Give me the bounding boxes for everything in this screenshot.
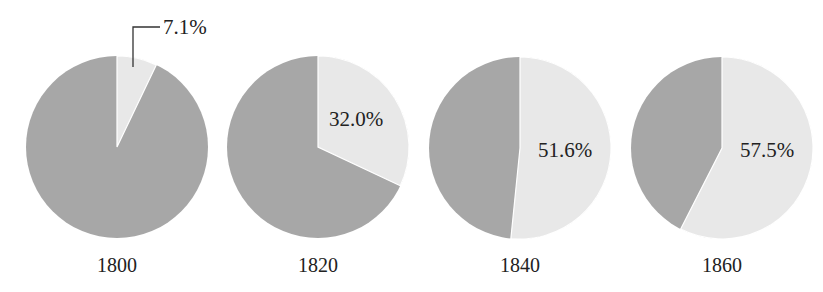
pie-1800: 7.1%1800 [26,15,208,276]
share-label: 32.0% [329,107,383,131]
year-label: 1860 [702,254,742,276]
pie-1820: 32.0%1820 [227,56,409,276]
pie-1860: 57.5%1860 [631,57,813,276]
year-label: 1840 [500,254,540,276]
pie-1840: 51.6%1840 [429,57,611,276]
pie-chart-group: 7.1%1800 32.0%1820 51.6%1840 57.5%1860 [0,0,823,292]
year-label: 1800 [97,254,137,276]
year-label: 1820 [298,254,338,276]
share-label: 57.5% [740,138,794,162]
share-label: 51.6% [538,138,592,162]
share-label: 7.1% [163,15,207,39]
